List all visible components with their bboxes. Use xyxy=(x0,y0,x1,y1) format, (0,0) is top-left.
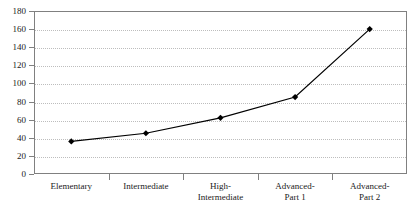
x-axis: ElementaryIntermediateHigh- Intermediate… xyxy=(34,181,407,206)
y-tick-label: 20 xyxy=(17,151,26,160)
series-line xyxy=(71,29,369,141)
x-tick-mark xyxy=(332,174,333,180)
data-point-marker xyxy=(143,130,149,136)
x-tick-label: High- Intermediate xyxy=(183,181,258,203)
x-axis-ticks xyxy=(34,174,407,180)
x-tick-label: Elementary xyxy=(34,181,109,192)
line-chart: 020406080100120140160180 ElementaryInter… xyxy=(0,0,416,206)
y-tick-label: 140 xyxy=(13,43,27,52)
x-tick-mark xyxy=(109,174,110,180)
data-point-marker xyxy=(68,138,74,144)
y-tick-label: 120 xyxy=(13,61,27,70)
x-tick-label: Intermediate xyxy=(109,181,184,192)
data-series-layer xyxy=(34,11,407,174)
y-tick-label: 80 xyxy=(17,97,26,106)
y-tick-label: 180 xyxy=(13,7,27,16)
y-tick-label: 60 xyxy=(17,115,26,124)
x-tick-label: Advanced- Part 1 xyxy=(258,181,333,203)
y-tick-label: 40 xyxy=(17,133,26,142)
x-tick-label: Advanced- Part 2 xyxy=(332,181,407,203)
y-tick-label: 160 xyxy=(13,25,27,34)
data-point-marker xyxy=(217,115,223,121)
y-tick-label: 0 xyxy=(22,170,27,179)
y-axis: 020406080100120140160180 xyxy=(0,0,34,206)
y-tick-label: 100 xyxy=(13,79,27,88)
x-tick-mark xyxy=(258,174,259,180)
x-tick-mark xyxy=(183,174,184,180)
